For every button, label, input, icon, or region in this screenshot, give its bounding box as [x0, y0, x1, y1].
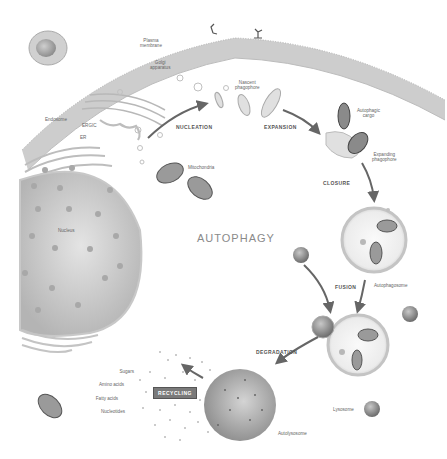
nascent-phagophore-label: Nascent phagophore: [235, 80, 260, 90]
stage-closure: CLOSURE: [323, 180, 350, 186]
ergic-label: ERGIC: [82, 123, 97, 128]
er-label: ER: [80, 135, 86, 140]
product-amino-acids: Amino acids: [94, 382, 124, 387]
autolysosome: [204, 369, 276, 441]
autophagosome: [342, 208, 406, 272]
stage-expansion: EXPANSION: [264, 124, 297, 130]
nascent-phagophore: [213, 86, 284, 120]
nucleus: [20, 165, 141, 352]
autolysosome-label: Autolysosome: [278, 431, 307, 436]
autophagosome-label: Autophagosome: [374, 283, 407, 288]
fusing-autophagosome: [312, 315, 388, 375]
mitochondria-label: Mitochondria: [188, 165, 214, 170]
expanding-phagophore-label: Expanding phagophore: [372, 152, 397, 162]
plasma-membrane-label: Plasma membrane: [140, 38, 162, 48]
external-cell: [29, 31, 67, 65]
autophagic-cargo-label: Autophagic cargo: [357, 108, 380, 118]
lysosome-label: Lysosome: [333, 407, 354, 412]
stage-degradation: DEGRADATION: [256, 349, 297, 355]
stage-nucleation: NUCLEATION: [176, 124, 212, 130]
diagram-title: AUTOPHAGY: [197, 232, 275, 244]
endosome-label: Endosome: [45, 117, 67, 122]
stage-recycling: RECYCLING: [153, 387, 197, 399]
golgi-label: Golgi apparatus: [150, 60, 170, 70]
stage-fusion: FUSION: [335, 284, 356, 290]
product-sugars: Sugars: [104, 369, 134, 374]
product-nucleotides: Nucleotides: [95, 409, 125, 414]
nucleus-label: Nucleus: [58, 228, 75, 233]
product-fatty-acids: Fatty acids: [88, 396, 118, 401]
